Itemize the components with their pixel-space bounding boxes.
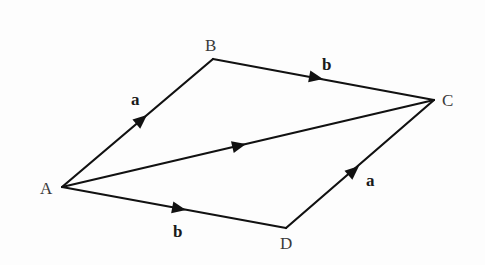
vertex-label-b: B (205, 36, 216, 55)
diagram-canvas: A B C D a b b a (0, 0, 485, 265)
edge-ac-diagonal (62, 100, 434, 187)
vertex-label-d: D (280, 234, 292, 253)
vector-label-dc: a (366, 171, 375, 190)
vector-label-bc: b (322, 55, 331, 74)
parallelogram-diagram: A B C D a b b a (0, 0, 485, 265)
vertex-label-c: C (442, 91, 453, 110)
arrowhead-ac-icon (231, 138, 247, 153)
vertex-label-a: A (40, 179, 53, 198)
vector-label-ab: a (131, 90, 140, 109)
edge-dc (286, 100, 434, 228)
vector-label-ad: b (173, 222, 182, 241)
